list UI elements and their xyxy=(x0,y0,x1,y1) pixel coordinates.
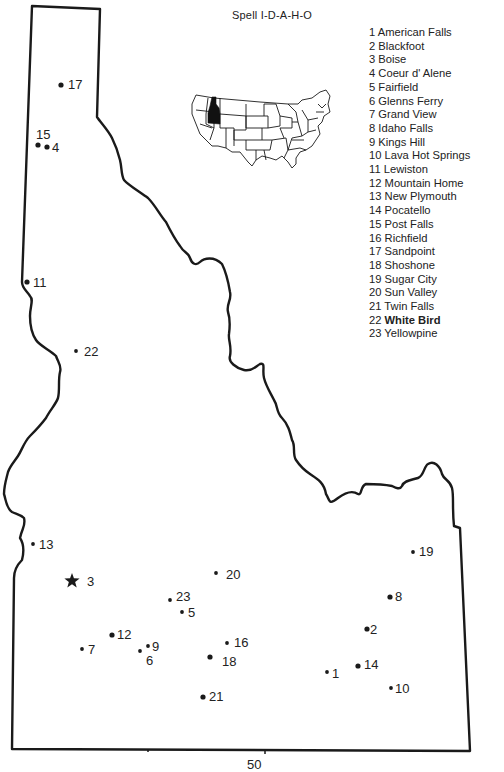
legend-city-name: Sun Valley xyxy=(385,286,438,298)
city-number-label: 6 xyxy=(146,654,153,667)
city-dot-icon xyxy=(355,663,360,668)
legend-number: 8 xyxy=(369,122,375,136)
city-dot-icon xyxy=(207,654,212,659)
legend-item: 17 Sandpoint xyxy=(369,245,470,259)
legend-number: 13 xyxy=(369,190,381,204)
legend-city-name: Coeur d' Alene xyxy=(378,67,451,79)
city-dot-icon xyxy=(44,144,49,149)
city-dot-icon xyxy=(389,686,393,690)
city-dot-icon xyxy=(109,632,114,637)
legend-city-name: Post Falls xyxy=(385,218,434,230)
legend-item: 18 Shoshone xyxy=(369,259,470,273)
city-dot-icon xyxy=(24,279,29,284)
legend-city-name: Shoshone xyxy=(385,259,435,271)
legend-city-name: Lewiston xyxy=(384,163,428,175)
capital-star-icon xyxy=(64,573,79,587)
legend-city-name: Yellowpine xyxy=(384,327,437,339)
legend-item: 6 Glenns Ferry xyxy=(369,95,470,109)
legend-number: 23 xyxy=(369,327,381,341)
legend-item: 4 Coeur d' Alene xyxy=(369,67,470,81)
legend-number: 2 xyxy=(369,40,375,54)
legend-item: 20 Sun Valley xyxy=(369,286,470,300)
legend-number: 18 xyxy=(369,259,381,273)
legend-city-name: Lava Hot Springs xyxy=(385,149,471,161)
city-number-label: 9 xyxy=(152,640,159,653)
legend-city-name: Grand View xyxy=(378,108,436,120)
legend-item: 3 Boise xyxy=(369,53,470,67)
legend-number: 12 xyxy=(369,177,381,191)
inset-idaho-highlight xyxy=(208,97,220,124)
legend-city-name: Fairfield xyxy=(378,81,418,93)
city-dot-icon xyxy=(168,598,172,602)
page-number: 50 xyxy=(247,757,261,772)
city-number-label: 5 xyxy=(188,606,195,619)
city-dot-icon xyxy=(214,571,218,575)
legend-item: 22 White Bird xyxy=(369,314,470,328)
legend-item: 1 American Falls xyxy=(369,26,470,40)
city-number-label: 1 xyxy=(332,667,339,680)
legend-number: 16 xyxy=(369,232,381,246)
legend-number: 10 xyxy=(369,149,381,163)
city-dot-icon xyxy=(138,649,142,653)
city-number-label: 8 xyxy=(395,590,402,603)
city-number-label: 16 xyxy=(234,636,248,649)
city-legend: 1 American Falls2 Blackfoot3 Boise4 Coeu… xyxy=(369,26,470,341)
legend-city-name: Sugar City xyxy=(385,273,437,285)
legend-item: 5 Fairfield xyxy=(369,81,470,95)
city-dot-icon xyxy=(74,349,78,353)
city-number-label: 7 xyxy=(88,643,95,656)
legend-item: 15 Post Falls xyxy=(369,218,470,232)
legend-item: 12 Mountain Home xyxy=(369,177,470,191)
legend-city-name: New Plymouth xyxy=(385,190,457,202)
city-number-label: 18 xyxy=(222,655,236,668)
legend-city-name: White Bird xyxy=(385,314,441,326)
legend-number: 7 xyxy=(369,108,375,122)
legend-item: 16 Richfield xyxy=(369,232,470,246)
city-number-label: 2 xyxy=(370,623,377,636)
legend-number: 1 xyxy=(369,26,375,40)
legend-item: 2 Blackfoot xyxy=(369,40,470,54)
legend-city-name: Blackfoot xyxy=(378,40,424,52)
legend-number: 19 xyxy=(369,273,381,287)
legend-number: 3 xyxy=(369,53,375,67)
legend-city-name: Glenns Ferry xyxy=(378,95,443,107)
city-dot-icon xyxy=(364,626,369,631)
city-dot-icon xyxy=(31,542,35,546)
legend-city-name: Mountain Home xyxy=(385,177,464,189)
legend-city-name: Kings Hill xyxy=(378,136,425,148)
city-dot-icon xyxy=(146,644,150,648)
legend-item: 19 Sugar City xyxy=(369,273,470,287)
city-number-label: 22 xyxy=(84,345,98,358)
city-number-label: 20 xyxy=(226,568,240,581)
legend-number: 9 xyxy=(369,136,375,150)
city-number-label: 17 xyxy=(68,78,82,91)
city-dot-icon xyxy=(35,142,40,147)
city-number-label: 13 xyxy=(39,538,53,551)
city-number-label: 10 xyxy=(395,682,409,695)
legend-item: 10 Lava Hot Springs xyxy=(369,149,470,163)
legend-item: 14 Pocatello xyxy=(369,204,470,218)
city-dot-icon xyxy=(387,594,392,599)
legend-number: 15 xyxy=(369,218,381,232)
legend-city-name: Twin Falls xyxy=(384,300,434,312)
city-dot-icon xyxy=(325,670,329,674)
legend-item: 23 Yellowpine xyxy=(369,327,470,341)
city-dot-icon xyxy=(225,641,229,645)
legend-number: 4 xyxy=(369,67,375,81)
legend-city-name: Richfield xyxy=(385,232,428,244)
city-markers xyxy=(24,82,415,699)
city-number-label: 3 xyxy=(87,575,94,588)
city-number-label: 15 xyxy=(36,128,50,141)
legend-item: 13 New Plymouth xyxy=(369,190,470,204)
legend-city-name: Sandpoint xyxy=(385,245,435,257)
city-dot-icon xyxy=(200,694,205,699)
legend-item: 9 Kings Hill xyxy=(369,136,470,150)
legend-number: 14 xyxy=(369,204,381,218)
legend-number: 21 xyxy=(369,300,381,314)
city-dot-icon xyxy=(80,647,84,651)
legend-item: 8 Idaho Falls xyxy=(369,122,470,136)
legend-city-name: Pocatello xyxy=(385,204,431,216)
city-number-label: 21 xyxy=(209,690,223,703)
legend-number: 22 xyxy=(369,314,381,328)
legend-number: 11 xyxy=(369,163,381,177)
